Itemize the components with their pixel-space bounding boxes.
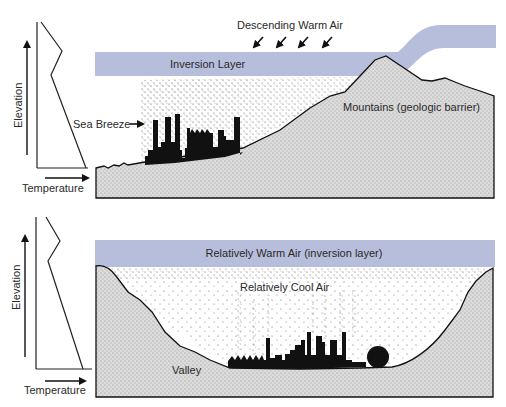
valley-label: Valley [172,364,202,376]
down-left-arrow-icon [254,37,263,47]
down-left-arrow-icon [277,37,286,47]
elevation-label: Elevation [10,265,22,310]
inversion-diagram: Elevation Temperature Inversion Layer Mo… [0,0,506,407]
inversion-layer-label: Inversion Layer [170,58,246,70]
temperature-curve [46,217,83,369]
descending-air-arrows [254,37,332,47]
top-temperature-profile: Elevation Temperature [12,22,88,194]
temperature-label: Temperature [22,182,84,194]
elevation-label: Elevation [12,83,24,128]
sea-breeze-label: Sea Breeze [73,118,130,130]
smog-ceiling [96,267,493,279]
down-left-arrow-icon [323,37,332,47]
top-panel: Elevation Temperature Inversion Layer Mo… [12,19,496,198]
temperature-label: Temperature [24,384,86,396]
warm-air-label: Relatively Warm Air (inversion layer) [206,247,383,259]
mountains-label: Mountains (geologic barrier) [343,101,480,113]
down-left-arrow-icon [299,37,308,47]
bottom-panel: Elevation Temperature Relatively Warm Ai… [10,217,495,397]
descending-warm-air-label: Descending Warm Air [237,19,343,31]
inversion-layer-band [95,25,496,76]
bottom-temperature-profile: Elevation Temperature [10,217,92,396]
temperature-curve [41,22,86,168]
storage-dome-icon [367,346,389,368]
cool-air-label: Relatively Cool Air [240,281,330,293]
